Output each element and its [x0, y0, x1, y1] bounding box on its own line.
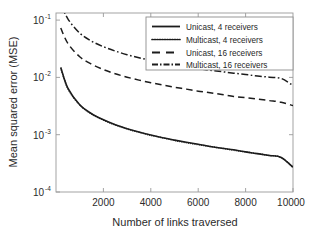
- y-tick-exp-3: -4: [45, 185, 51, 192]
- y-tick-exp-2: -3: [45, 128, 51, 135]
- x-tick-label-4: 10000: [277, 197, 305, 208]
- y-tick-label-2: 10: [33, 130, 45, 141]
- y-tick-label-1: 10: [33, 72, 45, 83]
- x-tick-label-1: 4000: [140, 197, 163, 208]
- x-tick-label-2: 6000: [187, 197, 210, 208]
- y-axis-title: Mean squared error (MSE): [7, 37, 19, 168]
- mse-vs-links-line-chart: 10 -1 10 -2 10 -3 10 -4 2000 4000 6000 8…: [0, 0, 317, 246]
- y-tick-exp-0: -1: [45, 13, 51, 20]
- y-tick-label-3: 10: [33, 187, 45, 198]
- x-tick-label-3: 8000: [234, 197, 257, 208]
- legend-label-3: Multicast, 16 receivers: [186, 61, 267, 70]
- x-tick-label-0: 2000: [92, 197, 115, 208]
- chart-figure: 10 -1 10 -2 10 -3 10 -4 2000 4000 6000 8…: [0, 0, 317, 246]
- y-tick-label-0: 10: [33, 15, 45, 26]
- chart-legend: Unicast, 4 receivers Multicast, 4 receiv…: [146, 17, 293, 70]
- legend-label-2: Unicast, 16 receivers: [186, 49, 262, 58]
- y-tick-exp-1: -2: [45, 70, 51, 77]
- x-axis-title: Number of links traversed: [112, 216, 237, 228]
- legend-label-0: Unicast, 4 receivers: [186, 23, 258, 32]
- legend-label-1: Multicast, 4 receivers: [186, 36, 263, 45]
